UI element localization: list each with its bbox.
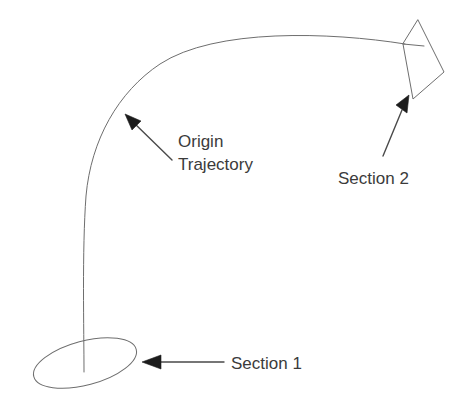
origin-trajectory-leader <box>133 122 172 160</box>
section-1-label: Section 1 <box>231 354 302 373</box>
origin-trajectory-callout: Origin Trajectory <box>125 114 253 174</box>
origin-trajectory-label-line1: Origin <box>178 132 223 151</box>
diagram-svg: Origin Trajectory Section 2 Section 1 <box>0 0 452 420</box>
origin-trajectory-label-line2: Trajectory <box>178 155 253 174</box>
section-2-quadrilateral <box>403 20 444 99</box>
section-2-axis-tick <box>403 44 424 46</box>
section-2-callout: Section 2 <box>338 95 409 188</box>
section-2-leader <box>383 110 402 156</box>
section-1-arrowhead <box>142 355 161 369</box>
section-1-ellipse <box>28 328 142 398</box>
diagram-canvas: Origin Trajectory Section 2 Section 1 <box>0 0 452 420</box>
section-1-callout: Section 1 <box>142 354 302 373</box>
section-2-label: Section 2 <box>338 169 409 188</box>
origin-trajectory-curve <box>84 35 406 372</box>
